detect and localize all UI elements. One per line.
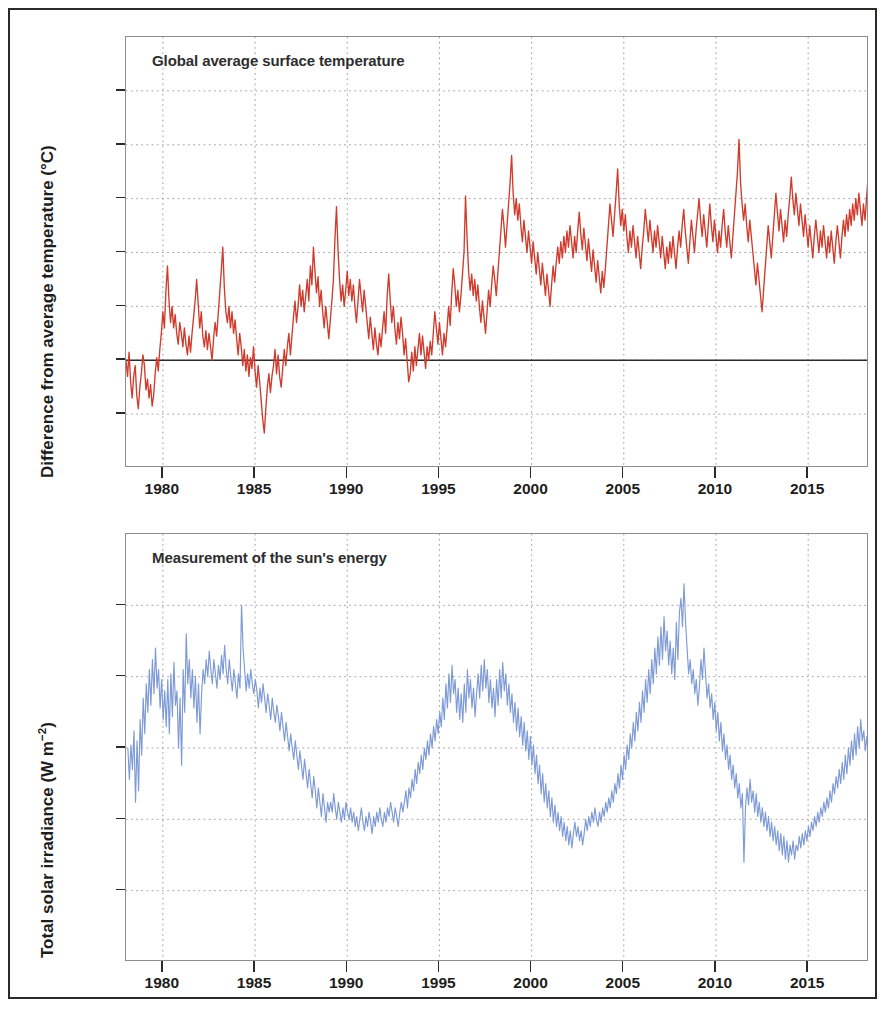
x-tick-mark xyxy=(253,961,254,972)
x-tick-label: 1995 xyxy=(421,480,455,498)
plot-area-solar xyxy=(125,533,868,961)
panel-title-temperature: Global average surface temperature xyxy=(152,52,405,69)
x-tick-label: 1980 xyxy=(145,480,179,498)
x-tick-label: 2005 xyxy=(606,974,640,992)
x-tick-label: 2000 xyxy=(513,974,547,992)
x-tick-mark xyxy=(806,961,807,972)
x-tick-label: 1995 xyxy=(421,974,455,992)
x-tick-mark xyxy=(622,961,623,972)
x-tick-label: 1990 xyxy=(329,974,363,992)
x-tick-mark xyxy=(530,961,531,972)
x-tick-mark xyxy=(161,961,162,972)
x-tick-label: 1990 xyxy=(329,480,363,498)
x-tick-mark xyxy=(622,467,623,478)
x-tick-label: 2010 xyxy=(698,480,732,498)
x-tick-mark xyxy=(714,467,715,478)
x-tick-mark xyxy=(253,467,254,478)
figure-root: Difference from average temperature (°C)… xyxy=(0,0,887,1022)
x-tick-label: 2015 xyxy=(790,974,824,992)
panel-title-solar: Measurement of the sun's energy xyxy=(152,549,387,566)
x-tick-mark xyxy=(714,961,715,972)
x-tick-mark xyxy=(530,467,531,478)
panel-temperature: Difference from average temperature (°C)… xyxy=(0,0,887,510)
x-tick-label: 1985 xyxy=(237,480,271,498)
x-tick-mark xyxy=(161,467,162,478)
solar-series-svg xyxy=(126,534,868,961)
temperature-series-svg xyxy=(126,37,868,467)
x-tick-mark xyxy=(438,961,439,972)
panel-solar-irradiance: Total solar irradiance (W m−2) 1359.5136… xyxy=(0,510,887,1022)
x-tick-label: 2010 xyxy=(698,974,732,992)
x-tick-mark xyxy=(438,467,439,478)
x-tick-label: 2005 xyxy=(606,480,640,498)
x-tick-label: 2015 xyxy=(790,480,824,498)
x-tick-label: 1980 xyxy=(145,974,179,992)
x-tick-label: 2000 xyxy=(513,480,547,498)
x-tick-mark xyxy=(346,467,347,478)
plot-area-temperature xyxy=(125,36,868,467)
x-tick-mark xyxy=(806,467,807,478)
x-tick-mark xyxy=(346,961,347,972)
x-tick-label: 1985 xyxy=(237,974,271,992)
